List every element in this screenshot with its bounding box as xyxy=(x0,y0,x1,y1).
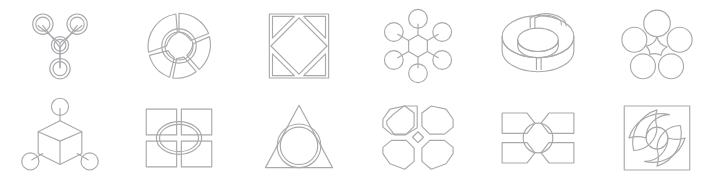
hexagon-hub-spoke-icon xyxy=(379,7,457,85)
isometric-donut-icon xyxy=(499,7,577,85)
icon-cell-square-in-diamond[interactable] xyxy=(239,0,359,92)
pinwheel-swirl-square-icon xyxy=(618,99,696,177)
icon-grid xyxy=(0,0,717,184)
icon-sheet xyxy=(0,0,717,184)
four-banner-circle-icon xyxy=(499,99,577,177)
cube-three-node-icon xyxy=(21,99,99,177)
icon-cell-segmented-donut[interactable] xyxy=(120,0,240,92)
icon-cell-triangle-circle[interactable] xyxy=(239,92,359,184)
icon-cell-trinode-molecule[interactable] xyxy=(0,0,120,92)
square-in-diamond-icon xyxy=(260,7,338,85)
triangle-circle-icon xyxy=(260,99,338,177)
icon-cell-pinwheel-swirl-square[interactable] xyxy=(598,92,717,184)
quad-panel-ellipse-icon xyxy=(140,99,218,177)
icon-cell-hexagon-hub-spoke[interactable] xyxy=(359,0,479,92)
icon-cell-four-banner-circle[interactable] xyxy=(478,92,598,184)
five-circle-rosette-icon xyxy=(618,7,696,85)
icon-cell-quad-panel-ellipse[interactable] xyxy=(120,92,240,184)
segmented-donut-icon xyxy=(140,7,218,85)
icon-cell-five-circle-rosette[interactable] xyxy=(598,0,717,92)
icon-cell-quad-octagon[interactable] xyxy=(359,92,479,184)
icon-cell-cube-three-node[interactable] xyxy=(0,92,120,184)
quad-octagon-icon xyxy=(379,99,457,177)
trinode-molecule-icon xyxy=(21,7,99,85)
icon-cell-isometric-donut[interactable] xyxy=(478,0,598,92)
